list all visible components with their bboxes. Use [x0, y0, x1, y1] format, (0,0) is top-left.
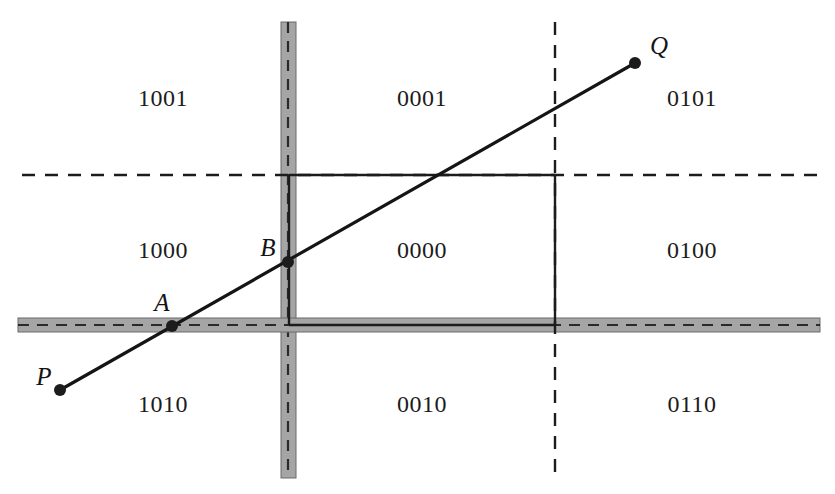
region-outcode-1010: 1010 [138, 391, 188, 418]
region-outcode-0001: 0001 [397, 85, 447, 112]
region-outcode-0101: 0101 [667, 85, 717, 112]
point-label-a: A [154, 289, 169, 317]
point-label-b: B [260, 234, 275, 262]
point-marker-b [282, 256, 294, 268]
point-marker-q [629, 57, 641, 69]
region-outcode-1000: 1000 [138, 237, 188, 264]
region-outcode-0110: 0110 [667, 391, 716, 418]
point-label-p: P [36, 363, 51, 391]
point-marker-p [54, 384, 66, 396]
region-outcode-0010: 0010 [397, 391, 447, 418]
region-outcode-1001: 1001 [138, 85, 188, 112]
diagram-canvas: 100100010101100000000100101000100110 PAB… [0, 0, 835, 494]
segment-pq [60, 63, 635, 390]
region-outcode-0100: 0100 [667, 237, 717, 264]
point-label-q: Q [650, 32, 668, 60]
region-outcode-0000: 0000 [397, 237, 447, 264]
point-marker-a [166, 320, 178, 332]
